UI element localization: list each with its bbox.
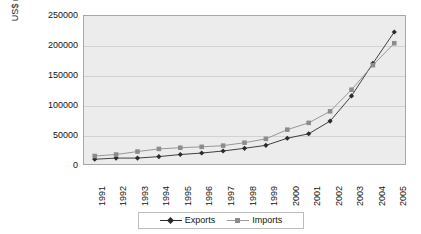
x-tick-label: 2004	[378, 186, 387, 206]
x-tick-label: 1993	[141, 186, 150, 206]
series-canvas	[84, 16, 405, 164]
data-point-imports	[371, 63, 376, 68]
data-point-imports	[392, 41, 397, 46]
data-point-exports	[178, 152, 183, 157]
x-tick-label: 2001	[313, 186, 322, 206]
x-tick-label: 1997	[227, 186, 236, 206]
data-point-imports	[328, 109, 333, 114]
y-tick-label: 100000	[32, 101, 78, 110]
legend-label-imports: Imports	[252, 216, 282, 225]
data-point-exports	[242, 146, 247, 151]
y-tick-label: 200000	[32, 41, 78, 50]
data-point-exports	[392, 29, 397, 34]
data-point-imports	[114, 152, 119, 157]
x-tick-label: 1995	[184, 186, 193, 206]
y-axis-title: US$ million	[10, 0, 26, 44]
x-tick-label: 2002	[335, 186, 344, 206]
x-tick-label: 1991	[98, 186, 107, 206]
legend-item-exports: Exports	[160, 216, 216, 225]
data-point-imports	[349, 87, 354, 92]
x-tick-label: 1996	[205, 186, 214, 206]
chart-figure: US$ million 0500001000001500002000002500…	[0, 0, 421, 234]
data-point-imports	[199, 145, 204, 150]
legend-item-imports: Imports	[227, 216, 282, 225]
data-point-imports	[242, 140, 247, 145]
x-axis-tick-labels: 1991199219931994199519961997199819992000…	[83, 166, 406, 210]
plot-area	[83, 15, 406, 165]
y-tick-label: 50000	[32, 131, 78, 140]
data-point-imports	[221, 143, 226, 148]
x-tick-label: 2005	[399, 186, 408, 206]
y-axis-tick-labels: 050000100000150000200000250000	[30, 0, 78, 234]
data-point-imports	[264, 137, 269, 142]
data-point-imports	[285, 127, 290, 132]
data-point-exports	[263, 143, 268, 148]
data-point-exports	[285, 136, 290, 141]
data-point-exports	[156, 154, 161, 159]
data-point-exports	[199, 150, 204, 155]
data-point-imports	[157, 147, 162, 152]
x-tick-label: 1999	[270, 186, 279, 206]
data-point-imports	[178, 145, 183, 150]
legend-label-exports: Exports	[185, 216, 216, 225]
data-point-exports	[306, 131, 311, 136]
series-line-imports	[95, 43, 395, 156]
x-tick-label: 1992	[119, 186, 128, 206]
y-tick-label: 250000	[32, 11, 78, 20]
x-tick-label: 2000	[292, 186, 301, 206]
y-tick-label: 0	[32, 161, 78, 170]
data-point-imports	[135, 149, 140, 154]
legend-marker-diamond	[160, 216, 182, 225]
data-point-exports	[135, 156, 140, 161]
x-tick-label: 1994	[162, 186, 171, 206]
data-point-imports	[92, 154, 97, 159]
x-tick-label: 1998	[249, 186, 258, 206]
data-point-imports	[306, 121, 311, 126]
chart-legend: Exports Imports	[138, 212, 304, 229]
y-tick-label: 150000	[32, 71, 78, 80]
x-tick-label: 2003	[356, 186, 365, 206]
data-point-exports	[221, 148, 226, 153]
legend-marker-square	[227, 216, 249, 225]
